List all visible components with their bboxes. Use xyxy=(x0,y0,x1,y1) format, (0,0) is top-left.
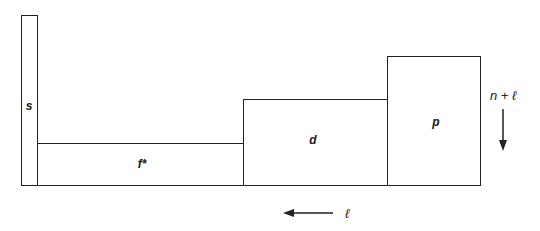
down-arrow-icon xyxy=(499,109,507,151)
left-arrow-icon xyxy=(283,209,333,217)
arrows xyxy=(0,0,540,231)
